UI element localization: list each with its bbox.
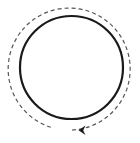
dashed-rotation-arc [8, 8, 130, 130]
cycle-diagram-svg [0, 0, 140, 143]
solid-circle [20, 16, 123, 119]
cycle-diagram [0, 0, 140, 143]
arrowhead-icon [79, 126, 86, 136]
